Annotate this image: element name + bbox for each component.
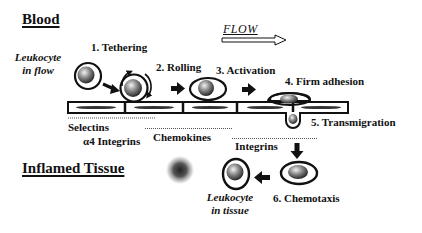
integrins-label: Integrins (235, 141, 278, 152)
transmigrating-leukocyte-cell (286, 112, 300, 128)
leukocyte-in-flow-line1: Leukocyte (10, 51, 66, 64)
arrow-right-icon (171, 82, 185, 95)
step-1-label: 1. Tethering (91, 42, 147, 53)
step-3-label: 3. Activation (216, 65, 275, 76)
arrow-right-icon (242, 83, 256, 96)
leukocyte-adhesion-cascade-diagram: Blood Inflamed Tissue FLOW Leukocyte in … (0, 0, 422, 233)
firmly-adhered-leukocyte-cell (268, 93, 310, 105)
flow-arrow-icon (222, 35, 286, 45)
alpha4-integrins-label: α4 Integrins (83, 136, 140, 147)
leukocyte-in-flow-label: Leukocyte in flow (10, 51, 66, 77)
leukocyte-in-flow-cell (75, 63, 101, 89)
chemokines-label: Chemokines (153, 132, 211, 143)
leukocyte-in-tissue-line2: in tissue (203, 204, 257, 217)
blood-title: Blood (22, 12, 60, 27)
step-6-label: 6. Chemotaxis (273, 193, 340, 204)
inflammation-source-starburst-icon (165, 155, 195, 185)
leukocyte-in-flow-line2: in flow (10, 64, 66, 77)
chemotaxing-leukocyte-cell (281, 162, 317, 184)
arrow-left-icon (254, 171, 270, 184)
inflamed-tissue-title: Inflamed Tissue (22, 161, 124, 176)
arrow-down-icon (291, 143, 304, 159)
activated-leukocyte-cell (190, 78, 226, 100)
arrow-right-down-icon (103, 84, 120, 94)
step-4-label: 4. Firm adhesion (285, 76, 364, 87)
selectins-label: Selectins (68, 122, 109, 133)
leukocyte-in-tissue-label: Leukocyte in tissue (203, 191, 257, 217)
flow-label: FLOW (223, 23, 258, 35)
step-2-label: 2. Rolling (156, 62, 201, 73)
leukocyte-in-tissue-line1: Leukocyte (203, 191, 257, 204)
step-5-label: 5. Transmigration (311, 117, 396, 128)
leukocyte-in-tissue-cell (223, 159, 249, 189)
rolling-leukocyte-cell (121, 75, 148, 102)
